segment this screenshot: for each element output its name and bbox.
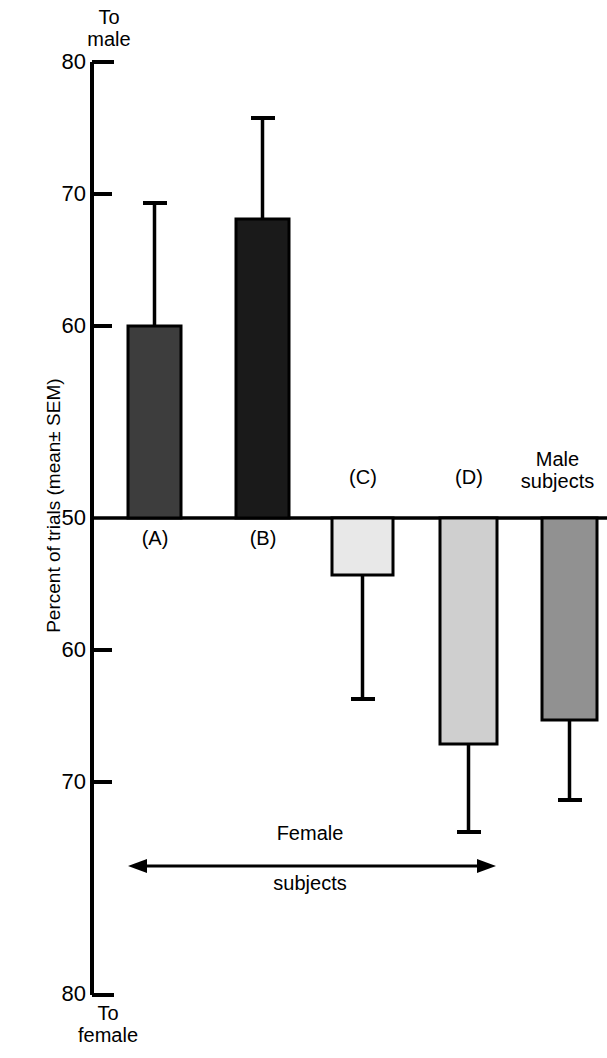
bar-caption-a: (A) [124, 527, 186, 549]
bar-b [236, 219, 289, 518]
bar-d [440, 518, 497, 744]
bar-group-male-subjects [542, 518, 597, 801]
plot-area [0, 0, 607, 1058]
bar-caption-b: (B) [232, 527, 294, 549]
arrow-head-right [477, 859, 496, 873]
arrow-head-left [128, 859, 147, 873]
bar-caption-d: (D) [438, 466, 500, 488]
female-subjects-label-line1: Female [200, 822, 420, 844]
male-subjects-line2: subjects [521, 470, 594, 492]
bar-caption-c: (C) [332, 466, 394, 488]
bar-c [332, 518, 393, 575]
bar-group-c [332, 518, 393, 700]
bar-group-d [440, 518, 497, 833]
bar-group-a [128, 202, 181, 518]
female-subjects-label-line2: subjects [200, 872, 420, 894]
male-subjects-line1: Male [536, 448, 579, 470]
bar-caption-male-subjects: Malesubjects [508, 448, 607, 493]
female-subjects-span-arrow [128, 859, 496, 873]
bar-a [128, 326, 181, 518]
bar-male-subjects [542, 518, 597, 720]
figure-canvas: To male To female Percent of trials (mea… [0, 0, 607, 1058]
bar-group-b [236, 117, 289, 518]
